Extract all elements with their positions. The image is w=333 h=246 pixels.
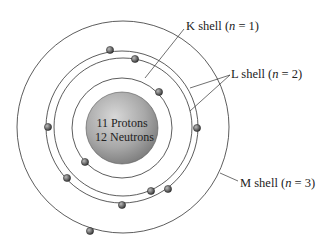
atom-diagram bbox=[0, 0, 333, 246]
k-shell-label: K shell (n = 1) bbox=[186, 19, 259, 34]
l-shell-label: L shell (n = 2) bbox=[231, 67, 302, 82]
nucleus-label: 11 Protons 12 Neutrons bbox=[95, 116, 149, 144]
m-shell-label: M shell (n = 3) bbox=[240, 176, 315, 191]
